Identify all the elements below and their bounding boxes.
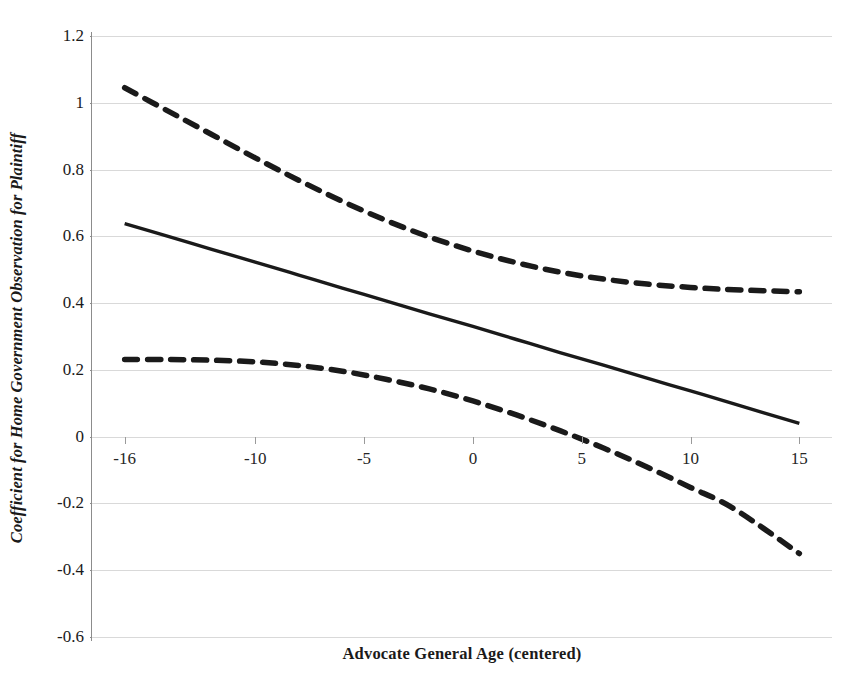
x-tick-label: -10: [244, 449, 267, 469]
x-tick-label: -16: [113, 449, 136, 469]
series-line-1: [125, 224, 800, 424]
y-axis-tick-labels: 1.210.80.60.40.20-0.2-0.4-0.6: [36, 36, 84, 637]
y-tick-label: -0.6: [36, 627, 84, 647]
series-lines: [92, 36, 832, 637]
y-tick-label: -0.2: [36, 493, 84, 513]
y-tick-label: 1.2: [36, 26, 84, 46]
series-line-0: [125, 88, 800, 292]
x-tick-mark: [799, 437, 800, 444]
x-tick-label: 0: [469, 449, 478, 469]
y-tick-label: 0.2: [36, 360, 84, 380]
x-tick-mark: [255, 437, 256, 444]
x-tick-label: 15: [791, 449, 808, 469]
x-tick-label: 5: [577, 449, 586, 469]
x-tick-mark: [582, 437, 583, 444]
x-axis-tick-labels: -16-10-5051015: [92, 445, 832, 471]
x-tick-mark: [364, 437, 365, 444]
x-tick-label: 10: [682, 449, 699, 469]
plot-area: [92, 36, 832, 637]
x-tick-label: -5: [357, 449, 371, 469]
x-tick-mark: [691, 437, 692, 444]
x-axis-title: Advocate General Age (centered): [92, 644, 832, 664]
x-tick-mark: [125, 437, 126, 444]
chart-container: Coefficient for Home Government Observat…: [0, 0, 845, 676]
y-tick-label: 0.8: [36, 160, 84, 180]
gridline-y: [92, 637, 832, 638]
y-tick-label: 1: [36, 93, 84, 113]
y-tick-label: -0.4: [36, 560, 84, 580]
y-tick-label: 0.4: [36, 293, 84, 313]
y-tick-label: 0.6: [36, 226, 84, 246]
x-tick-mark: [473, 437, 474, 444]
y-tick-label: 0: [36, 427, 84, 447]
y-axis-title: Coefficient for Home Government Observat…: [0, 0, 34, 676]
